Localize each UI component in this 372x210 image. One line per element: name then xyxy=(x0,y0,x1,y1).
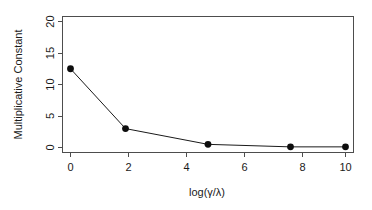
x-tick-label: 8 xyxy=(299,161,305,173)
data-point xyxy=(122,125,129,132)
y-tick-label: 5 xyxy=(44,113,56,119)
data-point xyxy=(205,141,212,148)
y-tick-label: 15 xyxy=(44,47,56,59)
x-tick-label: 4 xyxy=(183,161,189,173)
data-point xyxy=(342,143,349,150)
data-point xyxy=(67,65,74,72)
line-chart: 20 15 10 5 0 0 2 4 6 8 10 log(γ/λ) xyxy=(0,0,372,210)
y-tick-label: 10 xyxy=(44,78,56,90)
y-tick-label: 20 xyxy=(44,15,56,27)
x-tick-label: 2 xyxy=(125,161,131,173)
y-axis-title: Multiplicative Constant xyxy=(12,29,24,139)
chart-figure: 20 15 10 5 0 0 2 4 6 8 10 log(γ/λ) xyxy=(0,0,372,210)
y-tick-label: 0 xyxy=(44,144,56,150)
x-tick-label: 10 xyxy=(339,161,351,173)
x-axis-title: log(γ/λ) xyxy=(189,186,225,198)
x-tick-label: 0 xyxy=(67,161,73,173)
x-tick-label: 6 xyxy=(241,161,247,173)
chart-background xyxy=(0,0,372,210)
data-point xyxy=(287,143,294,150)
